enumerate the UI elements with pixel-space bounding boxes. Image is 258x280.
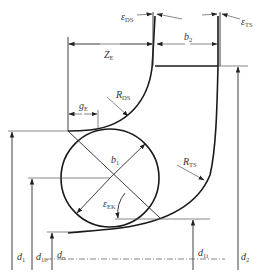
label-rts: RTS	[182, 156, 197, 168]
label-d1i: d1i	[198, 247, 208, 259]
label-b2: b2	[184, 31, 192, 43]
label-d1: d1	[17, 251, 25, 263]
eps-ek-arc	[118, 193, 125, 218]
hub-contour	[68, 16, 218, 233]
eps-ds-arrow-right	[157, 14, 182, 19]
eps-ts-arrow-right	[222, 14, 240, 19]
eps-ts-arrow-left	[202, 14, 217, 15]
label-dn: dn	[57, 249, 66, 261]
label-ze: ZE	[104, 49, 114, 61]
label-d2: d2	[241, 251, 249, 263]
impeller-geometry-diagram: εDS εTS ZE b2 gE RDS b1 RTS εEK d1 d1b d…	[0, 0, 258, 280]
label-eps-ts: εTS	[241, 16, 253, 28]
label-d1b: d1b	[36, 251, 48, 263]
label-eps-ek: εEK	[103, 198, 116, 210]
label-rds: RDS	[115, 89, 131, 101]
label-eps-ds: εDS	[121, 11, 134, 23]
label-ge: gE	[79, 100, 88, 112]
label-b1: b1	[111, 154, 119, 166]
eps-ds-arrow-left	[137, 14, 152, 15]
